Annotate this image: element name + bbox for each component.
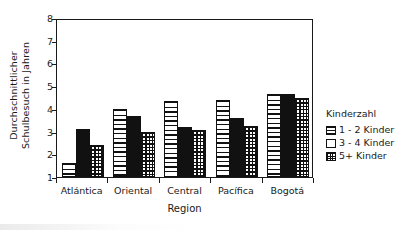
y-tick-label: 7 [39, 37, 53, 47]
x-tick-mark [159, 178, 160, 183]
bar [295, 98, 309, 178]
legend-swatch-icon [326, 152, 336, 161]
y-tick-label: 8 [39, 14, 53, 24]
y-axis-title: Durchschnittlicher Schulbesuch in Jahren [0, 0, 40, 190]
bar-group [108, 20, 159, 177]
legend-item-label: 1 - 2 Kinder [339, 125, 394, 135]
y-axis-title-line2: Schulbesuch in Jahren [20, 41, 32, 148]
bar [113, 109, 127, 177]
legend-swatch-icon [326, 139, 336, 148]
bar-group [263, 20, 314, 177]
plot-area [56, 19, 313, 178]
x-tick-mark [313, 178, 314, 183]
legend-item: 3 - 4 Kinder [326, 138, 416, 148]
y-tick-label: 4 [39, 105, 53, 115]
legend-swatch-icon [326, 126, 336, 135]
x-tick-label: Atlántica [56, 185, 107, 196]
bar [192, 130, 206, 177]
bar-group [160, 20, 211, 177]
bar [244, 126, 258, 177]
bar [62, 163, 76, 177]
x-tick-label: Oriental [107, 185, 158, 196]
bar-group [211, 20, 262, 177]
bar-group [57, 20, 108, 177]
bar [230, 118, 244, 177]
y-tick-label: 6 [39, 59, 53, 69]
legend-item-label: 3 - 4 Kinder [339, 138, 394, 148]
legend-title: Kinderzahl [326, 108, 416, 119]
x-tick-mark [56, 178, 57, 183]
bar [216, 100, 230, 177]
legend-item-label: 5+ Kinder [339, 151, 387, 161]
bar [127, 116, 141, 177]
x-axis-title: Region [56, 203, 313, 214]
legend-items: 1 - 2 Kinder3 - 4 Kinder5+ Kinder [326, 125, 416, 161]
legend: Kinderzahl 1 - 2 Kinder3 - 4 Kinder5+ Ki… [326, 108, 416, 164]
bar-chart: Durchschnittlicher Schulbesuch in Jahren… [0, 0, 416, 232]
bar [267, 94, 281, 177]
y-tick-label: 2 [39, 150, 53, 160]
x-tick-label: Bogotá [262, 185, 313, 196]
x-tick-label: Central [159, 185, 210, 196]
x-tick-label: Pacífica [210, 185, 261, 196]
x-tick-mark [262, 178, 263, 183]
bar [76, 129, 90, 177]
bars-layer [57, 20, 312, 177]
y-axis-title-line1: Durchschnittlicher [9, 41, 21, 148]
scan-artifact [0, 224, 200, 230]
x-tick-mark [107, 178, 108, 183]
legend-item: 1 - 2 Kinder [326, 125, 416, 135]
y-tick-label: 5 [39, 82, 53, 92]
bar [90, 145, 104, 177]
bar [141, 132, 155, 177]
y-tick-label: 3 [39, 128, 53, 138]
bar [281, 94, 295, 177]
bar [164, 101, 178, 177]
legend-item: 5+ Kinder [326, 151, 416, 161]
y-tick-label: 1 [39, 173, 53, 183]
x-tick-mark [210, 178, 211, 183]
bar [178, 127, 192, 177]
